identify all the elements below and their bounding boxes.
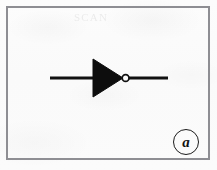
figure-sublabel-circle: a xyxy=(173,129,199,155)
inversion-bubble-icon xyxy=(122,75,129,82)
figure-sublabel-text: a xyxy=(182,134,190,149)
gate-triangle-body xyxy=(93,59,123,97)
figure-container: SCAN a xyxy=(0,0,217,170)
